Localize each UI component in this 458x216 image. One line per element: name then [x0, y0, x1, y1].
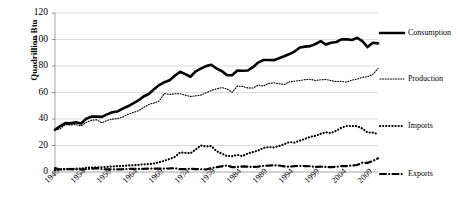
plot-area	[0, 0, 458, 216]
series-line-exports	[55, 158, 378, 169]
series-line-consumption	[55, 38, 378, 130]
series-line-imports	[55, 126, 378, 170]
gridlines	[55, 13, 378, 146]
energy-overview-chart: Quadrillion Btu 020406080100120 19491954…	[0, 0, 458, 216]
data-series-layer	[55, 38, 378, 170]
axis-tickmarks	[52, 13, 368, 175]
series-line-production	[55, 69, 378, 130]
legend-markers	[380, 33, 404, 174]
